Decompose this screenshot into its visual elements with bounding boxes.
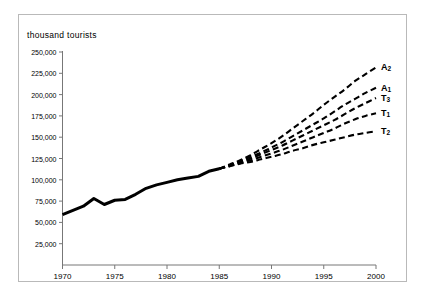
x-tick-label: 1975 — [106, 272, 124, 281]
series-label-subscript: 1 — [387, 111, 391, 118]
series-line-T2 — [219, 131, 376, 168]
y-tick-marks — [59, 52, 63, 244]
x-tick-label: 1985 — [210, 272, 228, 281]
y-tick-label: 200,000 — [31, 91, 56, 98]
series-label-T3: T3 — [381, 93, 390, 103]
series-label-T1: T1 — [381, 108, 390, 118]
plot-canvas — [0, 0, 426, 297]
series-line-A2 — [219, 67, 376, 168]
series-label-T2: T2 — [381, 126, 390, 136]
series-line-historical — [63, 169, 220, 215]
axis-lines — [63, 51, 377, 265]
x-tick-label: 1995 — [315, 272, 333, 281]
y-tick-label: 150,000 — [31, 134, 56, 141]
y-tick-label: 125,000 — [31, 155, 56, 162]
series-label-subscript: 2 — [388, 65, 392, 72]
series-label-subscript: 2 — [387, 129, 391, 136]
series-label-name: T — [381, 93, 387, 103]
series-line-A1 — [219, 88, 376, 169]
series-label-name: A — [381, 62, 388, 72]
series-label-A1: A1 — [381, 83, 391, 93]
x-tick-label: 1990 — [263, 272, 281, 281]
y-tick-label: 50,000 — [35, 219, 56, 226]
series-label-name: A — [381, 83, 388, 93]
y-tick-label: 175,000 — [31, 112, 56, 119]
series-label-subscript: 3 — [387, 96, 391, 103]
series-label-subscript: 1 — [388, 86, 392, 93]
chart-figure: thousand tourists 25,00050,00075,000100,… — [0, 0, 426, 297]
y-tick-label: 100,000 — [31, 176, 56, 183]
x-tick-label: 1970 — [54, 272, 72, 281]
y-tick-label: 250,000 — [31, 49, 56, 56]
series-label-name: T — [381, 126, 387, 136]
data-series-group — [63, 67, 377, 214]
series-label-A2: A2 — [381, 62, 391, 72]
y-tick-label: 25,000 — [35, 240, 56, 247]
series-label-name: T — [381, 108, 387, 118]
x-tick-label: 2000 — [367, 272, 385, 281]
y-tick-label: 75,000 — [35, 198, 56, 205]
y-tick-label: 225,000 — [31, 70, 56, 77]
x-tick-marks — [63, 265, 377, 269]
x-tick-label: 1980 — [158, 272, 176, 281]
